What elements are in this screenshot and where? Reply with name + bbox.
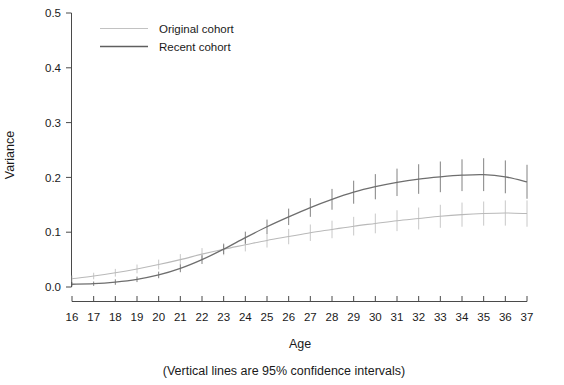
chart-svg: 0.00.10.20.30.40.5 Variance 161718192021… xyxy=(0,0,564,385)
y-tick-label: 0.2 xyxy=(45,172,61,184)
x-tick-label: 20 xyxy=(152,311,165,323)
x-tick-label: 32 xyxy=(412,311,425,323)
x-tick-label: 33 xyxy=(434,311,447,323)
x-tick-label: 37 xyxy=(521,311,534,323)
y-tick-label: 0.1 xyxy=(45,226,61,238)
x-tick-label: 23 xyxy=(217,311,230,323)
x-tick-label: 18 xyxy=(109,311,122,323)
y-axis-title: Variance xyxy=(3,131,17,179)
x-tick-label: 27 xyxy=(304,311,317,323)
y-tick-label: 0.5 xyxy=(45,7,61,19)
chart-caption: (Vertical lines are 95% confidence inter… xyxy=(163,364,405,378)
x-tick-label: 29 xyxy=(347,311,360,323)
x-tick-label: 22 xyxy=(196,311,209,323)
x-tick-label: 21 xyxy=(174,311,187,323)
chart-background xyxy=(0,0,564,385)
x-tick-label: 34 xyxy=(456,311,469,323)
x-tick-label: 24 xyxy=(239,311,252,323)
x-tick-label: 31 xyxy=(391,311,404,323)
legend-label-recent-cohort: Recent cohort xyxy=(159,41,231,53)
y-tick-label: 0.3 xyxy=(45,117,61,129)
x-tick-label: 30 xyxy=(369,311,382,323)
x-tick-label: 36 xyxy=(499,311,512,323)
x-tick-label: 26 xyxy=(282,311,295,323)
variance-by-age-chart: 0.00.10.20.30.40.5 Variance 161718192021… xyxy=(0,0,564,385)
y-tick-label: 0.4 xyxy=(45,62,62,74)
x-tick-label: 19 xyxy=(131,311,144,323)
x-tick-label: 17 xyxy=(87,311,100,323)
x-tick-label: 28 xyxy=(326,311,339,323)
x-tick-label: 16 xyxy=(66,311,79,323)
y-tick-label: 0.0 xyxy=(45,281,61,293)
x-axis-title: Age xyxy=(289,337,311,351)
x-tick-label: 35 xyxy=(477,311,490,323)
legend-label-original-cohort: Original cohort xyxy=(159,23,235,35)
x-tick-label: 25 xyxy=(261,311,274,323)
